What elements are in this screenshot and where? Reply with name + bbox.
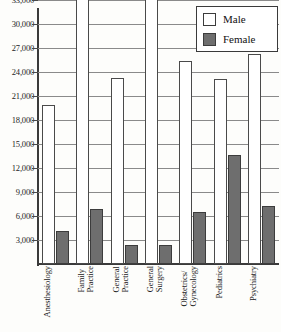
x-axis-category-label: Psychiatry xyxy=(249,266,258,301)
bar-male xyxy=(214,79,227,264)
y-axis-tick xyxy=(32,48,38,49)
y-axis-tick-label: 33,000 xyxy=(1,0,34,4)
bar-group xyxy=(38,8,72,264)
y-axis-tick-label: 18,000 xyxy=(1,116,34,125)
bar-male xyxy=(179,61,192,264)
y-axis-tick xyxy=(32,72,38,73)
bar-female xyxy=(125,245,138,264)
x-axis-category-label: Obstetrics/ Gynecology xyxy=(180,266,198,307)
chart-legend: Male Female xyxy=(196,6,278,52)
bar-male xyxy=(248,54,261,264)
y-axis-tick xyxy=(32,0,38,1)
bar-chart: 3,0006,0009,00012,00015,00018,00021,0002… xyxy=(0,0,281,332)
bar-female xyxy=(262,206,275,264)
y-axis-tick xyxy=(32,144,38,145)
y-axis-tick-label: 27,000 xyxy=(1,44,34,53)
y-axis-tick-label: 30,000 xyxy=(1,20,34,29)
y-axis-tick-label: 24,000 xyxy=(1,68,34,77)
bar-female xyxy=(90,209,103,264)
bar-group xyxy=(107,8,141,264)
y-axis-tick xyxy=(32,168,38,169)
y-axis-tick xyxy=(32,96,38,97)
y-axis-tick-label: 15,000 xyxy=(1,140,34,149)
bar-male xyxy=(42,105,55,264)
y-axis-tick-label: 21,000 xyxy=(1,92,34,101)
y-axis-tick-label: 3,000 xyxy=(1,236,34,245)
gray-square-icon xyxy=(203,33,216,46)
bar-female xyxy=(56,231,69,264)
x-axis-category-label: General Practice xyxy=(112,266,130,293)
bar-male xyxy=(145,0,158,264)
bar-female xyxy=(193,212,206,264)
legend-item-male: Male xyxy=(197,9,277,29)
x-axis-category-label: General Surgery xyxy=(146,266,164,292)
y-axis-tick-label: 9,000 xyxy=(1,188,34,197)
gridline xyxy=(38,0,279,1)
y-axis-tick xyxy=(32,192,38,193)
x-axis-labels: AnesthesiologyFamily PracticeGeneral Pra… xyxy=(38,266,279,332)
bar-group xyxy=(141,8,175,264)
white-square-icon xyxy=(203,13,216,26)
bar-group xyxy=(72,8,106,264)
bar-male xyxy=(111,78,124,264)
y-axis-tick xyxy=(32,216,38,217)
x-axis-category-label: Anesthesiology xyxy=(43,266,52,318)
x-axis-category-label: Family Practice xyxy=(77,266,95,293)
y-axis-tick-label: 12,000 xyxy=(1,164,34,173)
y-axis-tick xyxy=(32,240,38,241)
y-axis-labels: 3,0006,0009,00012,00015,00018,00021,0002… xyxy=(0,0,34,332)
bar-male xyxy=(76,0,89,264)
legend-label-male: Male xyxy=(223,13,246,25)
y-axis-tick xyxy=(32,120,38,121)
legend-item-female: Female xyxy=(197,29,277,49)
bar-female xyxy=(228,155,241,264)
legend-label-female: Female xyxy=(223,33,255,45)
bar-female xyxy=(159,245,172,264)
y-axis-tick-label: 6,000 xyxy=(1,212,34,221)
x-axis-category-label: Pediatrics xyxy=(215,266,224,299)
y-axis-tick xyxy=(32,24,38,25)
